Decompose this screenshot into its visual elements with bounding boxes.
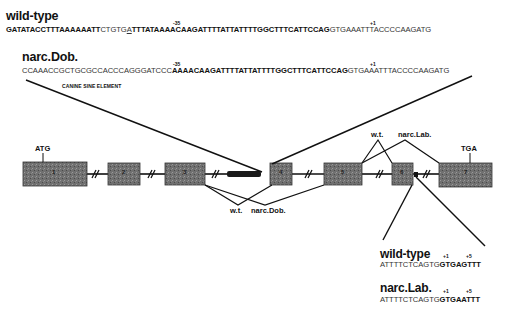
bottom-wildtype-title: wild-type [380,247,430,261]
bottom-narc-lab-plus1-marker: +1 [443,288,449,294]
seq-bold: GATATACCTTTAAAAAATT [6,25,100,34]
bottom-wildtype-plus1-marker: +1 [443,253,449,259]
seq-light: CCAAACCGCTGCGCCACCCAGGGATCCC [22,66,172,75]
seq-light: GTGAAATTTACCCCAAGATG [348,66,450,75]
canine-sine-element-label: CANINE SINE ELEMENT [62,83,121,89]
lab-wildtype-splice-label: w.t. [371,130,383,139]
exon-4-label: 4 [279,169,282,175]
exon-7-label: 7 [464,169,467,175]
bottom-wildtype-plus5-marker: +5 [466,253,472,259]
exon-5-label: 5 [341,169,344,175]
wildtype-promoter-sequence: GATATACCTTTAAAAAATTCTGTGATTTATAAAACAAGAT… [6,25,431,34]
exon-1-label: 1 [52,169,55,175]
sine-expansion-line-right [272,76,472,164]
bottom-narc-lab-splice-sequence: ATTTTCTCAGTGGTGAATTT [380,295,480,304]
sine-expansion-line-left [26,80,262,172]
bottom-narc-lab-plus5-marker: +5 [466,288,472,294]
exon-7-box [439,163,492,187]
seq-light: ATTTTCTCAGTG [380,260,440,269]
sine-insertion-bar [227,171,261,177]
exon-2-label: 2 [122,169,125,175]
seq-bold: GTGAGTTT [440,260,481,269]
exon-6-mutation-mark [414,172,418,177]
lab-mutant-splice-label: narc.Lab. [398,130,431,139]
lab-splice-lines [362,140,439,163]
wildtype-title: wild-type [6,9,58,23]
dob-wildtype-splice-label: w.t. [230,206,242,215]
seq-light: CTGTG [100,25,126,34]
start-codon-label: ATG [35,144,50,153]
gene-structure-diagram [0,0,508,318]
exon-6-label: 6 [400,169,403,175]
dob-mutant-splice-label: narc.Dob. [251,206,286,215]
seq-bold: GTGAATTT [440,295,480,304]
lab-expansion-line-left [383,185,412,240]
dob-splice-lines [205,185,324,205]
stop-codon-label: TGA [461,144,477,153]
seq-bold: AAAACAAGATTTTATTATTTTGGCTTTCATTCCAG [172,66,348,75]
seq-bold: TTTATAAAACAAGATTTTATTATTTTGGCTTTCATTCCAG [132,25,330,34]
narc-dob-title: narc.Dob. [22,50,78,64]
bottom-narc-lab-title: narc.Lab. [380,281,432,295]
seq-light: GTGAAATTTACCCCAAGATG [330,25,432,34]
bottom-wildtype-splice-sequence: ATTTTCTCAGTGGTGAGTTT [380,260,481,269]
exon-3-label: 3 [183,169,186,175]
seq-light: ATTTTCTCAGTG [380,295,440,304]
narc-dob-promoter-sequence: CCAAACCGCTGCGCCACCCAGGGATCCCAAAACAAGATTT… [22,66,449,75]
